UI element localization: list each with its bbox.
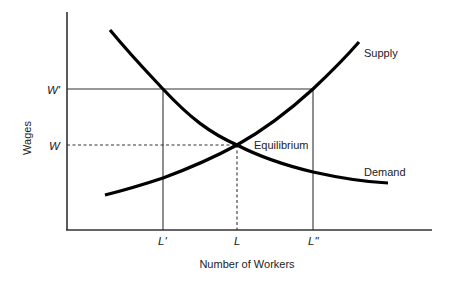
tick-w: W: [49, 140, 61, 152]
tick-l-prime: L': [158, 235, 167, 247]
supply-demand-diagram: W' W L' L L" Number of Workers Wages Sup…: [0, 0, 450, 281]
equilibrium-label: Equilibrium: [254, 139, 308, 151]
tick-w-prime: W': [47, 84, 61, 96]
tick-l: L: [234, 235, 240, 247]
demand-curve: [110, 30, 388, 183]
demand-label: Demand: [364, 166, 406, 178]
supply-label: Supply: [364, 47, 398, 59]
tick-l-double-prime: L": [308, 235, 319, 247]
x-axis-title: Number of Workers: [199, 258, 295, 270]
y-axis-title: Wages: [21, 121, 33, 155]
supply-curve: [105, 42, 359, 195]
